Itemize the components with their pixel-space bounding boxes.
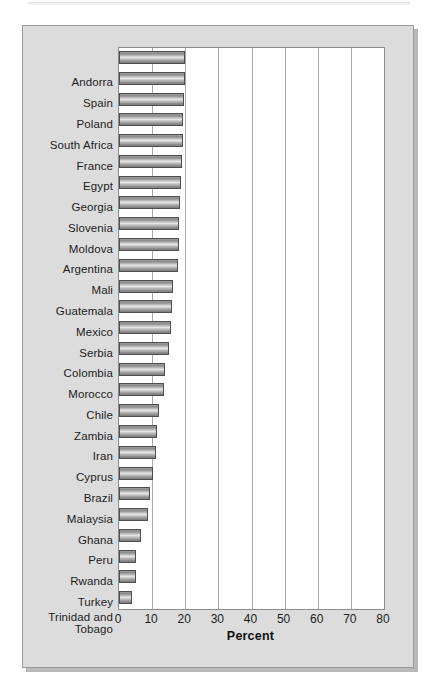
bar-row: [119, 131, 384, 151]
category-label: Peru: [21, 554, 113, 566]
bar: [119, 72, 185, 85]
bar: [119, 217, 179, 230]
bar: [119, 155, 182, 168]
bar-row: [119, 173, 384, 193]
bar: [119, 93, 184, 106]
bar-row: [119, 277, 384, 297]
bar-row: [119, 318, 384, 338]
category-label: Ghana: [21, 534, 113, 546]
plot-area: [118, 47, 385, 610]
bar: [119, 404, 159, 417]
bar: [119, 425, 157, 438]
category-label: Malaysia: [21, 513, 113, 525]
category-label: Zambia: [21, 430, 113, 442]
bar-row: [119, 380, 384, 400]
bar: [119, 51, 185, 64]
category-label: Spain: [21, 97, 113, 109]
category-label: Colombia: [21, 367, 113, 379]
category-label: France: [21, 160, 113, 172]
bar-row: [119, 588, 384, 608]
bar-row: [119, 152, 384, 172]
bar-row: [119, 526, 384, 546]
bar: [119, 446, 156, 459]
x-tick-80: 80: [363, 612, 403, 626]
category-label: Argentina: [21, 263, 113, 275]
bar-row: [119, 69, 384, 89]
y-axis-category-labels: AndorraSpainPolandSouth AfricaFranceEgyp…: [23, 72, 116, 633]
bar-series: [119, 48, 384, 609]
category-label: Guatemala: [21, 305, 113, 317]
scan-artifact-line: [28, 2, 410, 5]
category-label: Cyprus: [21, 471, 113, 483]
category-label: Mexico: [21, 326, 113, 338]
bar-row: [119, 193, 384, 213]
category-label: Poland: [21, 118, 113, 130]
bar: [119, 591, 132, 604]
category-label: Rwanda: [21, 575, 113, 587]
bar: [119, 487, 150, 500]
bar: [119, 529, 141, 542]
bar: [119, 134, 183, 147]
bar: [119, 383, 164, 396]
bar: [119, 550, 136, 563]
bar: [119, 176, 181, 189]
x-axis-tick-labels: 01020304050607080: [118, 612, 383, 630]
bar: [119, 467, 153, 480]
bar: [119, 280, 173, 293]
bar-row: [119, 48, 384, 68]
bar: [119, 363, 165, 376]
bar: [119, 570, 136, 583]
bar-row: [119, 505, 384, 525]
category-label: Iran: [21, 450, 113, 462]
bar-row: [119, 401, 384, 421]
bar-row: [119, 547, 384, 567]
category-label: Turkey: [21, 596, 113, 608]
bar-row: [119, 256, 384, 276]
x-axis-title: Percent: [118, 629, 383, 643]
bar-row: [119, 339, 384, 359]
category-label: Moldova: [21, 243, 113, 255]
category-label: Andorra: [21, 76, 113, 88]
bar: [119, 113, 183, 126]
category-label: Mali: [21, 284, 113, 296]
bar-row: [119, 235, 384, 255]
category-label: Chile: [21, 409, 113, 421]
bar-row: [119, 90, 384, 110]
bar-row: [119, 360, 384, 380]
category-label: Egypt: [21, 180, 113, 192]
category-label: Morocco: [21, 388, 113, 400]
bar-row: [119, 297, 384, 317]
bar-row: [119, 484, 384, 504]
bar-row: [119, 443, 384, 463]
bar-row: [119, 214, 384, 234]
category-label: Georgia: [21, 201, 113, 213]
category-label: Brazil: [21, 492, 113, 504]
chart-figure-panel: AndorraSpainPolandSouth AfricaFranceEgyp…: [22, 25, 414, 668]
bar-row: [119, 110, 384, 130]
bar: [119, 342, 169, 355]
bar: [119, 300, 172, 313]
bar: [119, 508, 148, 521]
bar-row: [119, 567, 384, 587]
bar: [119, 196, 180, 209]
category-label: South Africa: [21, 139, 113, 151]
bar: [119, 238, 179, 251]
bar: [119, 321, 171, 334]
category-label: Serbia: [21, 347, 113, 359]
bar: [119, 259, 178, 272]
bar-row: [119, 464, 384, 484]
category-label: Slovenia: [21, 222, 113, 234]
bar-row: [119, 422, 384, 442]
